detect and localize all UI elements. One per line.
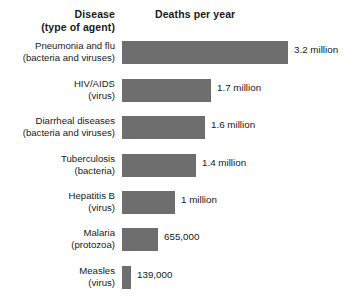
column-header-disease: Disease (type of agent) (0, 8, 115, 34)
row-disease-name: Pneumonia and flu (0, 40, 115, 52)
bar-hiv-aids (122, 79, 211, 102)
row-label-tuberculosis: Tuberculosis (bacteria) (0, 153, 115, 176)
deaths-per-year-bar-chart: Disease (type of agent) Deaths per year … (0, 0, 363, 296)
bar-pneumonia-and-flu (122, 41, 288, 64)
bar-value-hepatitis-b: 1 million (181, 194, 217, 206)
bar-tuberculosis (122, 154, 196, 177)
row-agent-type: (virus) (0, 90, 115, 102)
row-label-hepatitis-b: Hepatitis B (virus) (0, 190, 115, 213)
table-row: Malaria (protozoa) 655,000 (0, 227, 363, 263)
row-agent-type: (bacteria and viruses) (0, 52, 115, 64)
row-disease-name: Tuberculosis (0, 153, 115, 165)
chart-plot-area: Pneumonia and flu (bacteria and viruses)… (0, 40, 363, 296)
table-row: Pneumonia and flu (bacteria and viruses)… (0, 40, 363, 76)
bar-value-tuberculosis: 1.4 million (202, 157, 246, 169)
row-disease-name: HIV/AIDS (0, 78, 115, 90)
row-label-diarrheal-diseases: Diarrheal diseases (bacteria and viruses… (0, 115, 115, 138)
bar-hepatitis-b (122, 191, 175, 214)
column-header-disease-line1: Disease (0, 8, 115, 21)
table-row: Diarrheal diseases (bacteria and viruses… (0, 115, 363, 151)
table-row: Tuberculosis (bacteria) 1.4 million (0, 153, 363, 189)
row-agent-type: (protozoa) (0, 239, 115, 251)
row-disease-name: Measles (0, 265, 115, 277)
bar-value-measles: 139,000 (137, 269, 172, 281)
row-agent-type: (virus) (0, 277, 115, 289)
row-label-hiv-aids: HIV/AIDS (virus) (0, 78, 115, 101)
bar-value-pneumonia-and-flu: 3.2 million (294, 44, 338, 56)
bar-value-diarrheal-diseases: 1.6 million (211, 119, 255, 131)
row-agent-type: (bacteria) (0, 165, 115, 177)
bar-value-malaria: 655,000 (164, 231, 199, 243)
row-disease-name: Malaria (0, 227, 115, 239)
bar-value-hiv-aids: 1.7 million (217, 82, 261, 94)
row-disease-name: Hepatitis B (0, 190, 115, 202)
column-header-disease-line2: (type of agent) (0, 21, 115, 34)
row-disease-name: Diarrheal diseases (0, 115, 115, 127)
bar-measles (122, 266, 131, 289)
row-agent-type: (bacteria and viruses) (0, 127, 115, 139)
bar-malaria (122, 228, 158, 251)
table-row: Measles (virus) 139,000 (0, 265, 363, 296)
row-label-pneumonia-and-flu: Pneumonia and flu (bacteria and viruses) (0, 40, 115, 63)
chart-header: Disease (type of agent) Deaths per year (0, 8, 363, 38)
column-header-deaths: Deaths per year (155, 8, 235, 20)
row-label-malaria: Malaria (protozoa) (0, 227, 115, 250)
table-row: Hepatitis B (virus) 1 million (0, 190, 363, 226)
row-label-measles: Measles (virus) (0, 265, 115, 288)
table-row: HIV/AIDS (virus) 1.7 million (0, 78, 363, 114)
bar-diarrheal-diseases (122, 116, 205, 139)
row-agent-type: (virus) (0, 202, 115, 214)
